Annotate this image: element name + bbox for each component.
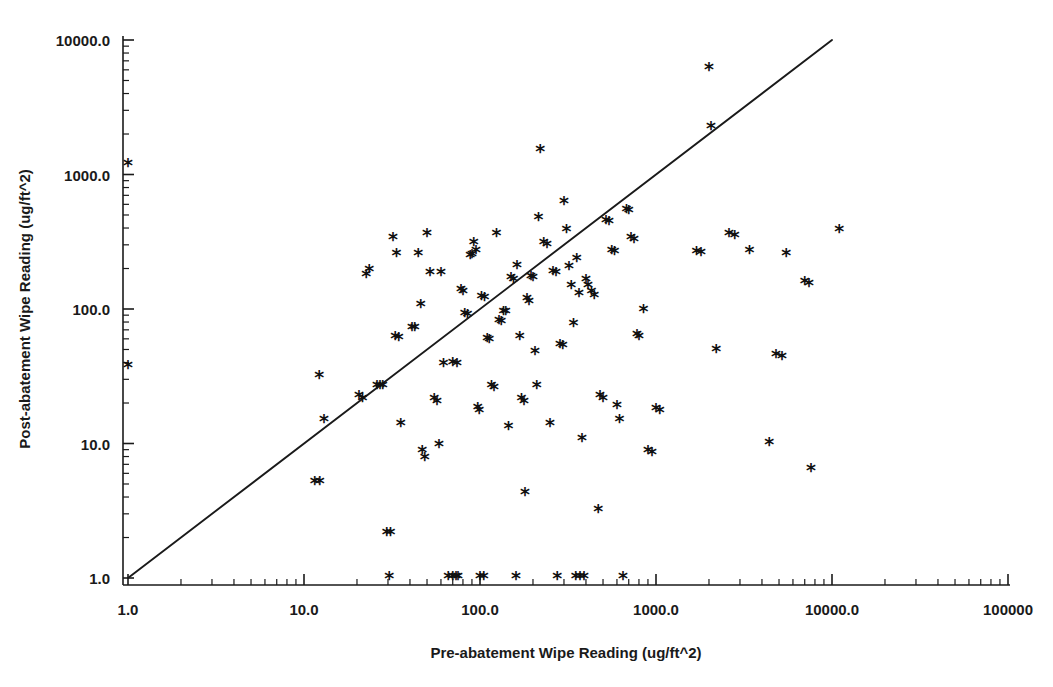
data-point-marker: * [364,260,374,282]
data-point-marker: * [647,443,657,465]
data-point-marker: * [420,448,430,470]
data-point-marker: * [520,483,530,505]
data-point-marker: * [396,414,406,436]
data-point-marker: * [764,433,774,455]
data-point-marker: * [489,378,499,400]
data-point-marker: * [410,318,420,340]
x-axis-title: Pre-abatement Wipe Reading (ug/ft^2) [430,644,701,661]
plot-canvas: 1.010.0100.01000.010000.01000001.010.010… [0,0,1053,687]
data-point-marker: * [629,230,639,252]
data-point-marker: * [534,208,544,230]
data-point-marker: * [528,268,538,290]
data-point-marker: * [745,241,755,263]
y-tick-label: 10000.0 [56,32,110,49]
ticks-group [123,40,1008,585]
data-point-marker: * [474,401,484,423]
data-point-marker: * [711,340,721,362]
data-point-marker: * [123,154,133,176]
data-point-marker: * [593,500,603,522]
data-point-marker: * [524,292,534,314]
data-point-marker: * [806,459,816,481]
x-tick-label: 10000.0 [805,601,859,618]
data-point-marker: * [386,523,396,545]
data-point-marker: * [453,567,463,589]
y-tick-label: 100.0 [72,301,110,318]
data-point-marker: * [572,249,582,271]
data-point-marker: * [704,58,714,80]
data-point-marker: * [471,241,481,263]
data-point-marker: * [545,414,555,436]
data-point-marker: * [598,389,608,411]
data-point-marker: * [479,567,489,589]
data-point-marker: * [604,212,614,234]
data-point-marker: * [552,567,562,589]
data-point-marker: * [542,235,552,257]
data-point-marker: * [511,567,521,589]
data-point-marker: * [434,435,444,457]
data-point-marker: * [479,288,489,310]
data-point-marker: * [696,243,706,265]
y-tick-label: 1000.0 [64,167,110,184]
data-point-marker: * [512,256,522,278]
tick-labels-group: 1.010.0100.01000.010000.01000001.010.010… [56,32,1033,618]
data-point-marker: * [491,224,501,246]
axes-group [123,36,1010,585]
data-point-marker: * [634,327,644,349]
scatter-plot-figure: 1.010.0100.01000.010000.01000001.010.010… [0,0,1053,687]
data-point-marker: * [519,392,529,414]
data-point-marker: * [781,244,791,266]
data-point-marker: * [391,244,401,266]
data-point-marker: * [804,274,814,296]
data-point-marker: * [834,220,844,242]
data-point-marker: * [777,347,787,369]
data-point-marker: * [314,366,324,388]
x-tick-label: 1.0 [118,601,139,618]
data-point-marker: * [618,567,628,589]
data-point-marker: * [639,300,649,322]
data-point-marker: * [425,263,435,285]
data-point-marker: * [501,302,511,324]
data-point-marker: * [515,327,525,349]
data-point-marker: * [530,342,540,364]
x-tick-label: 1000.0 [633,601,679,618]
data-point-marker: * [562,220,572,242]
data-point-marker: * [358,389,368,411]
data-point-marker: * [436,263,446,285]
data-point-marker: * [463,305,473,327]
data-point-marker: * [378,376,388,398]
data-point-marker: * [532,376,542,398]
data-point-marker: * [535,140,545,162]
data-point-marker: * [452,354,462,376]
x-tick-label: 100.0 [461,601,499,618]
data-point-marker: * [624,201,634,223]
data-point-marker: * [655,401,665,423]
data-point-marker: * [609,242,619,264]
data-point-marker: * [394,328,404,350]
data-point-marker: * [384,567,394,589]
data-point-marker: * [413,244,423,266]
y-axis-title: Post-abatement Wipe Reading (ug/ft^2) [16,169,33,448]
x-tick-label: 10.0 [289,601,318,618]
x-tick-label: 100000 [983,601,1033,618]
data-point-marker: * [432,392,442,414]
data-point-marker: * [315,472,325,494]
data-point-marker: * [706,117,716,139]
data-point-marker: * [416,295,426,317]
data-point-marker: * [458,282,468,304]
data-point-marker: * [558,336,568,358]
data-point-marker: * [589,286,599,308]
data-point-marker: * [569,314,579,336]
data-point-marker: * [422,224,432,246]
y-tick-label: 1.0 [89,570,110,587]
data-point-marker: * [123,356,133,378]
data-point-marker: * [730,226,740,248]
data-point-marker: * [614,410,624,432]
data-points-group: ****************************************… [123,58,844,588]
y-tick-label: 10.0 [81,436,110,453]
data-point-marker: * [551,263,561,285]
data-point-marker: * [559,192,569,214]
data-point-marker: * [579,567,589,589]
data-point-marker: * [484,330,494,352]
data-point-marker: * [577,429,587,451]
data-point-marker: * [319,410,329,432]
